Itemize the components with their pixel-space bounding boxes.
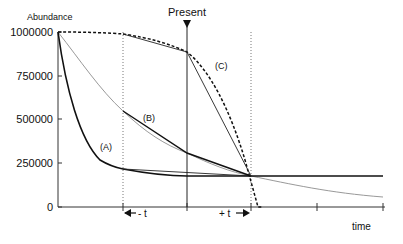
curve-c-label: (C)	[215, 61, 228, 71]
present-label: Present	[168, 6, 206, 18]
series-gray-exponential	[58, 32, 383, 197]
y-tick-label: 250000	[16, 157, 53, 169]
right-arrow-icon	[243, 209, 250, 217]
curve-a-label: (A)	[100, 142, 112, 152]
y-tick-label: 0	[47, 201, 53, 213]
curve-b-label: (B)	[143, 113, 155, 123]
series-a	[58, 32, 251, 176]
present-arrow-icon	[183, 20, 191, 28]
chart: Abundance 1000000 750000 500000 250000 0…	[0, 0, 403, 244]
left-arrow-icon	[124, 209, 131, 217]
y-tick-label: 1000000	[10, 26, 53, 38]
y-tick-label: 750000	[16, 70, 53, 82]
plus-t-label: + t	[219, 208, 231, 219]
x-axis-title: time	[352, 221, 371, 232]
minus-t-label: - t	[138, 208, 147, 219]
y-tick-label: 500000	[16, 113, 53, 125]
y-axis-title: Abundance	[27, 12, 73, 22]
series-c	[58, 32, 262, 207]
